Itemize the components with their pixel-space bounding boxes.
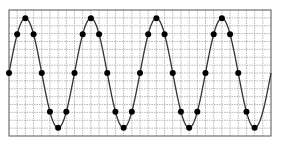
data-point-marker	[162, 31, 168, 37]
data-point-marker	[252, 125, 258, 131]
data-point-marker	[72, 70, 78, 76]
sine-wave-chart	[0, 0, 281, 145]
data-point-marker	[186, 125, 192, 131]
data-point-marker	[80, 31, 86, 37]
data-point-marker	[96, 31, 102, 37]
data-point-marker	[203, 70, 209, 76]
data-point-marker	[178, 109, 184, 115]
data-point-marker	[227, 31, 233, 37]
data-point-marker	[194, 109, 200, 115]
data-point-marker	[145, 31, 151, 37]
data-point-marker	[88, 15, 94, 21]
data-point-marker	[31, 31, 37, 37]
data-point-marker	[121, 125, 127, 131]
data-point-marker	[14, 31, 20, 37]
data-point-marker	[219, 15, 225, 21]
data-point-marker	[63, 109, 69, 115]
data-point-marker	[6, 70, 12, 76]
data-point-marker	[104, 70, 110, 76]
data-point-marker	[55, 125, 61, 131]
data-point-marker	[22, 15, 28, 21]
data-point-marker	[170, 70, 176, 76]
data-point-marker	[112, 109, 118, 115]
data-point-marker	[243, 109, 249, 115]
data-point-marker	[153, 15, 159, 21]
data-point-marker	[235, 70, 241, 76]
data-point-marker	[211, 31, 217, 37]
data-point-marker	[47, 109, 53, 115]
data-point-marker	[137, 70, 143, 76]
data-point-marker	[39, 70, 45, 76]
data-point-marker	[129, 109, 135, 115]
